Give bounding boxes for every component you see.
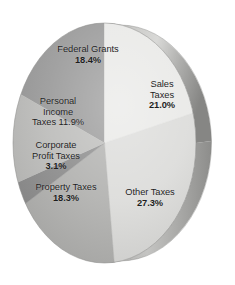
slice-label-other-taxes: Other Taxes 27.3% <box>106 187 194 208</box>
slice-label-corporate-profit-taxes-line1: Corporate <box>10 140 102 151</box>
slice-label-federal-grants-name: Federal Grants <box>36 44 140 55</box>
slice-label-sales-taxes-percent: 21.0% <box>131 100 193 111</box>
slice-label-sales-taxes-name-line1: Sales <box>131 79 193 90</box>
slice-label-personal-income-taxes-line1: Personal <box>8 96 108 107</box>
slice-label-federal-grants: Federal Grants 18.4% <box>36 44 140 65</box>
slice-label-personal-income-taxes: Personal Income Taxes 11.9% <box>8 96 108 128</box>
pie-chart-figure: Federal Grants 18.4% Sales Taxes 21.0% P… <box>0 0 235 285</box>
slice-label-corporate-profit-taxes-percent: 3.1% <box>10 161 102 172</box>
slice-label-personal-income-taxes-line3: Taxes 11.9% <box>8 117 108 128</box>
slice-label-sales-taxes-name-line2: Taxes <box>131 90 193 101</box>
slice-label-other-taxes-name: Other Taxes <box>106 187 194 198</box>
slice-label-personal-income-taxes-line2: Income <box>8 107 108 118</box>
slice-label-property-taxes: Property Taxes 18.3% <box>14 182 118 203</box>
slice-label-property-taxes-name: Property Taxes <box>14 182 118 193</box>
slice-label-corporate-profit-taxes-line2: Profit Taxes <box>10 151 102 162</box>
slice-label-corporate-profit-taxes: Corporate Profit Taxes 3.1% <box>10 140 102 172</box>
slice-label-federal-grants-percent: 18.4% <box>36 55 140 66</box>
slice-label-other-taxes-percent: 27.3% <box>106 198 194 209</box>
slice-label-property-taxes-percent: 18.3% <box>14 193 118 204</box>
slice-label-sales-taxes: Sales Taxes 21.0% <box>131 79 193 111</box>
